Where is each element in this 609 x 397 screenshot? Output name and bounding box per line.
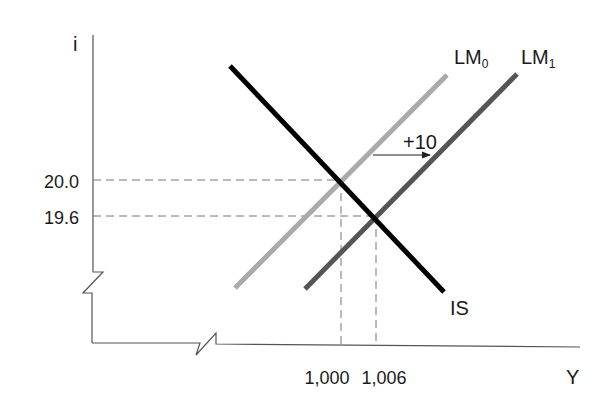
lm1-label: LM1	[521, 46, 556, 71]
x-tick-1006: 1,006	[361, 368, 406, 388]
y-axis-title: i	[73, 33, 77, 55]
y-tick-20-0: 20.0	[44, 172, 79, 192]
lm1-label-sub: 1	[549, 57, 556, 71]
lm0-label: LM0	[454, 46, 489, 71]
x-axis	[92, 333, 580, 355]
y-axis	[83, 35, 103, 343]
shift-label: +10	[403, 131, 437, 153]
lm0-label-sub: 0	[482, 57, 489, 71]
x-tick-1000: 1,000	[304, 368, 349, 388]
is-label: IS	[450, 297, 469, 319]
lm0-label-main: LM	[454, 46, 482, 68]
x-axis-title: Y	[566, 366, 579, 388]
lm1-label-main: LM	[521, 46, 549, 68]
y-tick-19-6: 19.6	[44, 208, 79, 228]
is-lm-chart: +10 i Y 20.0 19.6 1,000 1,006 IS LM0 LM1	[0, 0, 609, 397]
